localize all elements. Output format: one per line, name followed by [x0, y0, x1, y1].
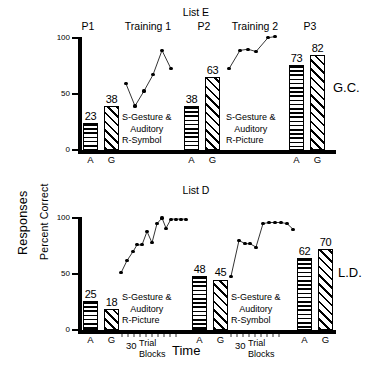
top-bar-p3-auditory [289, 65, 304, 150]
bottom-training2-point [254, 246, 257, 249]
bottom-training2-point [261, 222, 264, 225]
top-letter-p3-auditory: A [289, 154, 305, 165]
bottom-training2-point [285, 222, 288, 225]
top-training2-point [266, 36, 269, 39]
top-training2-point [254, 50, 257, 53]
top-bar-p3-gesture [310, 55, 325, 150]
bottom-bar-p3-auditory [297, 258, 312, 330]
bottom-training2-point [243, 242, 246, 245]
bottom-training2-point [237, 239, 240, 242]
panel-top: List E P1 Training 1 P2 Training 2 P3 10… [0, 0, 366, 180]
bottom-bar-p3-gesture [318, 249, 333, 330]
bottom-training2-point [229, 275, 232, 278]
top-value-p3-auditory: 73 [282, 52, 312, 64]
panel-bottom: List D 100 50 0 25 A 18 G S-Gesture & Au… [0, 180, 366, 365]
bottom-training2-point [267, 221, 270, 224]
bottom-letter-p3-gesture: G [318, 334, 334, 345]
figure-root: Responses Percent Correct Time List E P1… [0, 0, 366, 365]
top-subject-label: G.C. [333, 80, 360, 95]
bottom-subject-label: L.D. [338, 265, 362, 280]
bottom-training2-point [248, 242, 251, 245]
bottom-training2-point [291, 228, 294, 231]
bottom-training2-point [279, 221, 282, 224]
top-training2-point [273, 35, 276, 38]
bottom-letter-p3-auditory: A [297, 334, 313, 345]
top-training2-point [246, 48, 249, 51]
top-letter-p3-gesture: G [310, 154, 326, 165]
top-training2-point [238, 49, 241, 52]
bottom-training2-point [273, 221, 276, 224]
top-value-p3-gesture: 82 [303, 42, 333, 54]
bottom-value-p3-gesture: 70 [311, 236, 341, 248]
